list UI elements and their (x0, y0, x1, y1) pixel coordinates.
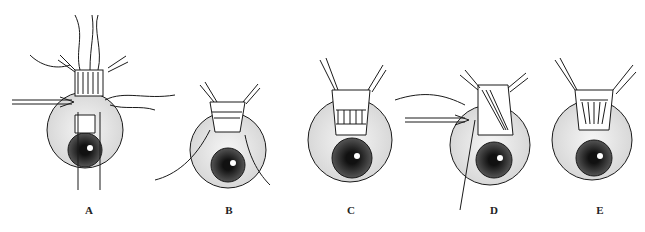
panel-label-d: D (490, 204, 498, 216)
panel-label-b: B (225, 204, 232, 216)
panel-b-drawing (155, 82, 270, 188)
surgical-illustration (0, 0, 645, 232)
panel-d-drawing (395, 70, 530, 210)
panel-c-drawing (308, 58, 392, 182)
panel-label-a: A (85, 204, 93, 216)
panel-label-c: C (347, 204, 355, 216)
panel-a-drawing (12, 15, 175, 190)
panel-label-e: E (596, 204, 603, 216)
panel-e-drawing (552, 58, 636, 180)
